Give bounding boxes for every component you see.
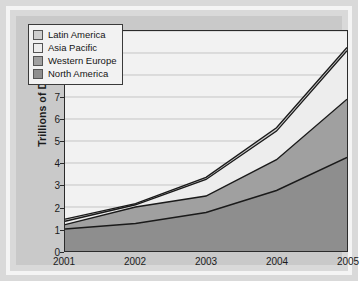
y-axis-tick-label: 7 <box>30 91 60 102</box>
y-axis-tick-label: 5 <box>30 136 60 147</box>
legend-item: Western Europe <box>33 55 116 67</box>
y-axis-tick-label: 4 <box>30 158 60 169</box>
x-axis-tick-label: 2003 <box>184 256 228 267</box>
x-axis-tick-label: 2005 <box>326 256 364 267</box>
legend-item-label: North America <box>48 69 108 79</box>
legend-swatch-icon <box>33 69 43 79</box>
chart-legend: Latin AmericaAsia PacificWestern EuropeN… <box>28 24 123 85</box>
legend-swatch-icon <box>33 30 43 40</box>
legend-item-label: Latin America <box>48 30 106 40</box>
legend-item: Latin America <box>33 29 116 41</box>
x-axis-tick-label: 2004 <box>255 256 299 267</box>
legend-item-label: Western Europe <box>48 56 116 66</box>
chart-panel: Trillions of Dollars 012345678910 200120… <box>16 16 342 265</box>
legend-item: North America <box>33 68 116 80</box>
y-axis-tick-label: 1 <box>30 224 60 235</box>
x-axis-tick-label: 2002 <box>113 256 157 267</box>
legend-item: Asia Pacific <box>33 42 116 54</box>
legend-swatch-icon <box>33 43 43 53</box>
legend-item-label: Asia Pacific <box>48 43 97 53</box>
figure-inner-frame: Trillions of Dollars 012345678910 200120… <box>6 6 352 275</box>
y-axis-tick-mark <box>60 252 64 253</box>
legend-swatch-icon <box>33 56 43 66</box>
y-axis-tick-label: 3 <box>30 180 60 191</box>
y-axis-tick-label: 2 <box>30 202 60 213</box>
y-axis-tick-label: 6 <box>30 113 60 124</box>
x-axis-tick-label: 2001 <box>42 256 86 267</box>
